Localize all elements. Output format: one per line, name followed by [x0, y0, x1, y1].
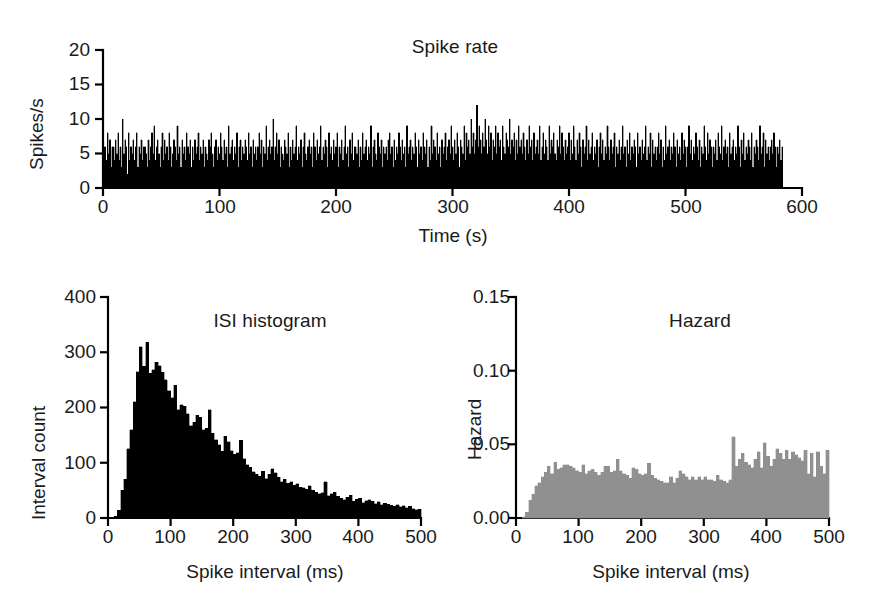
- hazard-x-tickmarks: [516, 518, 829, 526]
- hazard-bars: [522, 437, 829, 518]
- panel-spike-rate: Spike rate Spikes/s Time (s) 0 5 10 15 2…: [0, 0, 873, 265]
- spike-rate-plot-svg: [0, 0, 873, 265]
- hazard-plot-svg: [440, 265, 873, 606]
- figure-root: Spike rate Spikes/s Time (s) 0 5 10 15 2…: [0, 0, 873, 606]
- panel-isi-histogram: ISI histogram Interval count Spike inter…: [0, 265, 440, 606]
- isi-histogram-bars: [111, 342, 421, 518]
- isi-plot-svg: [0, 265, 440, 606]
- isi-y-tickmarks: [100, 297, 108, 518]
- spike-rate-y-tickmarks: [95, 50, 103, 188]
- spike-rate-x-tickmarks: [103, 188, 802, 196]
- bar-series: [111, 342, 421, 518]
- bar-series: [102, 105, 782, 188]
- isi-x-tickmarks: [108, 518, 421, 526]
- hazard-y-tickmarks: [508, 297, 516, 518]
- spike-rate-bars: [102, 105, 782, 188]
- panel-hazard: Hazard Hazard Spike interval (ms) 0.00 0…: [440, 265, 873, 606]
- bar-series: [522, 437, 829, 518]
